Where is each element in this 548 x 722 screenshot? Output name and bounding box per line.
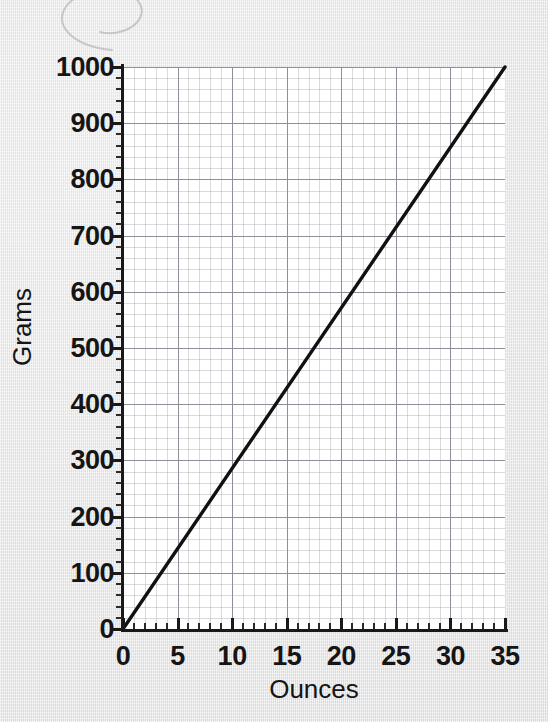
y-minor-tick-mark <box>116 257 122 259</box>
y-tick-mark <box>111 66 123 69</box>
y-minor-tick-mark <box>116 268 122 270</box>
x-minor-tick-mark <box>264 623 266 629</box>
x-minor-tick-mark <box>242 623 244 629</box>
x-tick-mark <box>504 618 507 630</box>
y-minor-tick-mark <box>116 336 122 338</box>
y-minor-tick-mark <box>116 482 122 484</box>
y-minor-tick-mark <box>116 358 122 360</box>
x-tick-mark <box>286 618 289 630</box>
x-minor-tick-mark <box>460 623 462 629</box>
y-minor-tick-mark <box>116 111 122 113</box>
y-tick-mark <box>111 122 123 125</box>
x-minor-tick-mark <box>439 623 441 629</box>
x-minor-tick-mark <box>482 623 484 629</box>
y-minor-tick-mark <box>116 145 122 147</box>
y-tick-mark <box>111 291 123 294</box>
x-minor-tick-mark <box>362 623 364 629</box>
y-minor-tick-mark <box>116 156 122 158</box>
y-minor-tick-mark <box>116 414 122 416</box>
y-minor-tick-mark <box>116 167 122 169</box>
y-minor-tick-mark <box>116 549 122 551</box>
x-minor-tick-mark <box>155 623 157 629</box>
y-tick-label: 100 <box>14 560 114 587</box>
y-minor-tick-mark <box>116 201 122 203</box>
y-minor-tick-mark <box>116 212 122 214</box>
x-minor-tick-mark <box>406 623 408 629</box>
y-minor-tick-mark <box>116 583 122 585</box>
y-minor-tick-mark <box>116 190 122 192</box>
y-minor-tick-mark <box>116 246 122 248</box>
y-tick-mark <box>111 516 123 519</box>
y-tick-mark <box>111 572 123 575</box>
x-tick-mark <box>177 618 180 630</box>
y-tick-label: 400 <box>14 391 114 418</box>
x-minor-tick-mark <box>417 623 419 629</box>
x-minor-tick-mark <box>209 623 211 629</box>
y-tick-mark <box>111 235 123 238</box>
y-tick-label: 700 <box>14 223 114 250</box>
x-minor-tick-mark <box>275 623 277 629</box>
x-minor-tick-mark <box>166 623 168 629</box>
y-minor-tick-mark <box>116 471 122 473</box>
y-minor-tick-mark <box>116 381 122 383</box>
x-minor-tick-mark <box>329 623 331 629</box>
y-minor-tick-mark <box>116 561 122 563</box>
x-minor-tick-mark <box>253 623 255 629</box>
x-minor-tick-mark <box>493 623 495 629</box>
x-minor-tick-mark <box>198 623 200 629</box>
x-tick-mark <box>122 618 125 630</box>
y-tick-label: 0 <box>14 616 114 643</box>
y-minor-tick-mark <box>116 325 122 327</box>
y-minor-tick-mark <box>116 504 122 506</box>
y-tick-label: 1000 <box>14 54 114 81</box>
y-minor-tick-mark <box>116 606 122 608</box>
y-minor-tick-mark <box>116 426 122 428</box>
x-minor-tick-mark <box>351 623 353 629</box>
y-minor-tick-mark <box>116 100 122 102</box>
y-tick-mark <box>111 178 123 181</box>
y-minor-tick-mark <box>116 493 122 495</box>
x-minor-tick-mark <box>308 623 310 629</box>
y-minor-tick-mark <box>116 392 122 394</box>
y-tick-label: 300 <box>14 447 114 474</box>
y-minor-tick-mark <box>116 88 122 90</box>
x-minor-tick-mark <box>187 623 189 629</box>
y-minor-tick-mark <box>116 302 122 304</box>
y-minor-tick-mark <box>116 448 122 450</box>
y-tick-mark <box>111 459 123 462</box>
y-tick-label: 200 <box>14 504 114 531</box>
y-minor-tick-mark <box>116 437 122 439</box>
x-minor-tick-mark <box>297 623 299 629</box>
y-tick-label: 800 <box>14 166 114 193</box>
y-tick-label: 900 <box>14 110 114 137</box>
x-minor-tick-mark <box>428 623 430 629</box>
x-tick-label: 35 <box>470 643 540 670</box>
y-minor-tick-mark <box>116 313 122 315</box>
x-minor-tick-mark <box>384 623 386 629</box>
y-tick-mark <box>111 403 123 406</box>
y-minor-tick-mark <box>116 527 122 529</box>
y-minor-tick-mark <box>116 538 122 540</box>
x-tick-mark <box>449 618 452 630</box>
x-tick-mark <box>340 618 343 630</box>
x-minor-tick-mark <box>373 623 375 629</box>
y-minor-tick-mark <box>116 280 122 282</box>
x-minor-tick-mark <box>144 623 146 629</box>
x-minor-tick-mark <box>133 623 135 629</box>
graph-figure: 01002003004005006007008009001000 0510152… <box>0 0 548 722</box>
y-minor-tick-mark <box>116 77 122 79</box>
x-axis-title: Ounces <box>123 676 505 702</box>
x-minor-tick-mark <box>471 623 473 629</box>
x-tick-mark <box>395 618 398 630</box>
y-tick-mark <box>111 347 123 350</box>
y-minor-tick-mark <box>116 133 122 135</box>
y-minor-tick-mark <box>116 223 122 225</box>
y-minor-tick-mark <box>116 369 122 371</box>
y-minor-tick-mark <box>116 594 122 596</box>
plot-grid-area <box>123 67 505 629</box>
y-axis-title: Grams <box>9 272 35 382</box>
x-minor-tick-mark <box>220 623 222 629</box>
x-minor-tick-mark <box>318 623 320 629</box>
x-tick-mark <box>231 618 234 630</box>
